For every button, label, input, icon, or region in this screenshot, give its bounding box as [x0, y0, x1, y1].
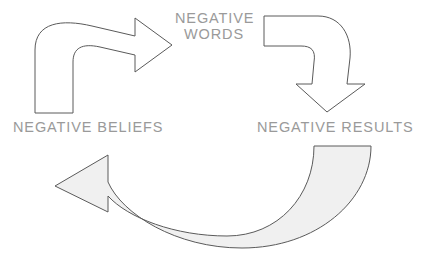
node-label-negative-results: NEGATIVE RESULTS: [257, 120, 413, 136]
curved-arrow-up-right-icon: [35, 18, 172, 113]
node-label-negative-beliefs: NEGATIVE BELIEFS: [13, 120, 163, 136]
cycle-diagram: NEGATIVEWORDS NEGATIVE BELIEFS NEGATIVE …: [0, 0, 428, 260]
node-label-negative-words: NEGATIVEWORDS: [175, 11, 253, 42]
curved-arrow-down-icon: [264, 16, 365, 112]
curved-arrow-up-left-icon: [55, 146, 371, 248]
node-label-negative-words-line2: WORDS: [184, 26, 244, 42]
node-label-negative-words-line1: NEGATIVE: [175, 10, 254, 26]
